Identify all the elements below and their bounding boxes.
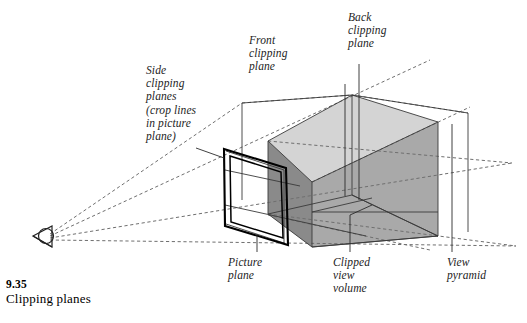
pyramid-top-left-edge	[242, 95, 352, 103]
figure-caption-text: Clipping planes	[6, 291, 206, 307]
figure-number: 9.35	[6, 277, 206, 291]
label-picture-plane: Picture plane	[228, 256, 262, 282]
label-clipped-view-volume: Clipped view volume	[333, 256, 370, 296]
figure-caption: 9.35 Clipping planes	[6, 277, 206, 307]
label-side-clipping-planes: Side clipping planes (crop lines in pict…	[146, 64, 196, 143]
label-front-clipping-plane: Front clipping plane	[249, 34, 288, 74]
viewpoint-lens-arc	[39, 229, 54, 244]
eye-viewpoint-icon	[33, 226, 54, 247]
label-view-pyramid: View pyramid	[447, 256, 486, 282]
figure-clipping-planes: Side clipping planes (crop lines in pict…	[0, 0, 527, 323]
viewpoint-baseline	[33, 236, 52, 247]
label-back-clipping-plane: Back clipping plane	[348, 11, 387, 51]
leader-side-clipping	[196, 148, 224, 158]
